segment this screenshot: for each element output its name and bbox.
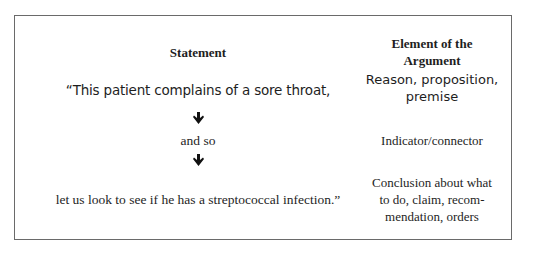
column-header-element-line2: Argument (361, 52, 503, 69)
element-conclusion-line1: Conclusion about what (361, 174, 503, 191)
element-conclusion-line2: to do, claim, recom- (361, 191, 503, 208)
element-premise-line1: Reason, proposition, (361, 71, 503, 88)
element-premise-line2: premise (361, 88, 503, 105)
statement-premise: “This patient complains of a sore throat… (40, 82, 356, 99)
element-premise: Reason, proposition, premise (361, 71, 503, 105)
column-header-element: Element of the Argument (361, 35, 503, 69)
column-header-statement: Statement (40, 44, 356, 61)
element-conclusion-line3: mendation, orders (361, 208, 503, 225)
down-arrow-icon (40, 154, 356, 166)
element-conclusion: Conclusion about what to do, claim, reco… (361, 174, 503, 225)
down-arrow-icon (40, 112, 356, 124)
column-header-element-line1: Element of the (361, 35, 503, 52)
statement-conclusion: let us look to see if he has a streptoco… (40, 191, 356, 208)
element-connector: Indicator/connector (361, 132, 503, 149)
statement-connector: and so (40, 132, 356, 149)
